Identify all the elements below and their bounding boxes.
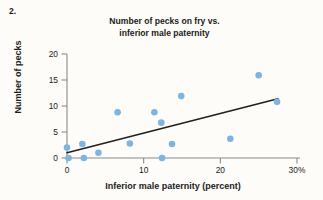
y-tick-label: 20: [49, 49, 59, 59]
data-point: [81, 155, 88, 162]
figure-container: 2. Number of pecks on fry vs. inferior m…: [0, 0, 323, 200]
x-tick-label: 10: [139, 165, 149, 175]
y-axis-title: Number of pecks: [13, 29, 23, 125]
data-point: [274, 99, 281, 106]
data-point: [227, 135, 234, 142]
data-point: [114, 109, 121, 116]
x-tick-label: 30%: [289, 165, 306, 175]
x-axis-title: Inferior male paternity (percent): [44, 181, 302, 191]
data-point: [178, 93, 185, 100]
data-point: [65, 155, 72, 162]
data-point: [158, 119, 165, 126]
data-point: [79, 141, 86, 148]
x-tick-label: 0: [65, 165, 70, 175]
x-axis-ticks: 0102030%: [65, 158, 306, 175]
data-point: [151, 109, 158, 116]
y-tick-label: 10: [49, 101, 59, 111]
data-points: [64, 72, 281, 161]
plot-svg: 05101520 0102030%: [0, 0, 323, 200]
data-point: [127, 140, 134, 147]
x-tick-label: 20: [216, 165, 226, 175]
data-point: [159, 155, 166, 162]
scatter-plot: 05101520 0102030%: [0, 0, 323, 200]
data-point: [169, 141, 176, 148]
data-point: [95, 150, 102, 157]
data-point: [255, 72, 262, 79]
axes: [67, 54, 300, 158]
data-point: [64, 144, 71, 151]
y-tick-label: 0: [53, 153, 58, 163]
y-tick-label: 5: [53, 127, 58, 137]
y-tick-label: 15: [49, 75, 59, 85]
